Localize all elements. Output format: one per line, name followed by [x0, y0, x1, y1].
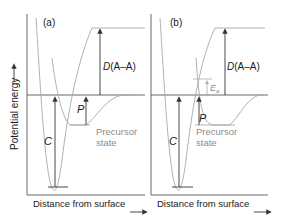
y-axis-label-group: Potential energy	[9, 66, 20, 150]
panel-b: (b) D(A–A) Ea C P Precursor state Distan…	[151, 14, 269, 212]
panel-a-d-rest: (A–A)	[110, 61, 136, 72]
panel-a-x-axis-label: Distance from surface	[33, 198, 125, 209]
y-axis-label: Potential energy	[9, 78, 20, 150]
panel-a-chemisorption-curve	[36, 18, 145, 190]
panel-a-d-italic: D	[103, 61, 110, 72]
panel-b-label: (b)	[170, 17, 182, 28]
panel-a-p-label: P	[77, 103, 85, 115]
panel-b-precursor-state-line1: Precursor	[196, 126, 237, 137]
panel-b-precursor-state-line2: state	[196, 137, 217, 148]
panel-b-x-axis-label: Distance from surface	[157, 198, 249, 209]
panel-b-d-rest: (A–A)	[234, 61, 260, 72]
panel-a-c-label: C	[44, 135, 52, 147]
panel-a-precursor-state-line2: state	[96, 137, 117, 148]
potential-energy-diagram: Potential energy (a) D(A–A) C P Precurso…	[0, 0, 285, 224]
panel-a-label: (a)	[43, 17, 55, 28]
panel-b-chemisorption-curve	[160, 18, 265, 190]
panel-b-dissociation-label: D(A–A)	[227, 61, 260, 72]
panel-a-precursor-state-line1: Precursor	[96, 126, 137, 137]
panel-b-ea-label: Ea	[210, 83, 220, 94]
panel-b-p-label: P	[199, 112, 207, 124]
panel-b-d-italic: D	[227, 61, 234, 72]
panel-a: (a) D(A–A) C P Precursor state Distance …	[27, 14, 145, 212]
panel-b-ea-sub: a	[216, 88, 220, 94]
panel-a-dissociation-label: D(A–A)	[103, 61, 136, 72]
panel-b-c-label: C	[169, 135, 177, 147]
